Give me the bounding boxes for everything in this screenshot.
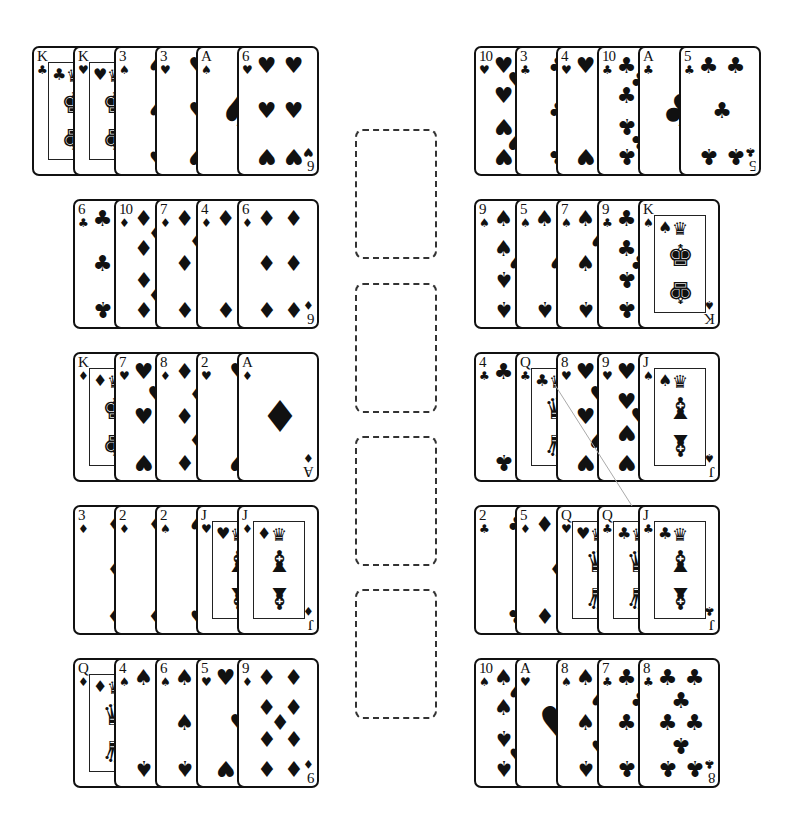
card-pips: ♥♥♥♥♥♥ — [253, 58, 307, 164]
card-rank: 3 — [160, 49, 167, 64]
card-rank-bottom: 6 — [307, 158, 315, 173]
diamond-icon: ♦ — [535, 514, 555, 536]
5-of-clubs-card[interactable]: 5♣♣♣♣♣♣5♣ — [679, 46, 761, 176]
club-icon: ♣ — [602, 676, 613, 688]
card-rank: 6 — [78, 202, 85, 217]
card-rank: K — [78, 355, 88, 370]
spade-icon: ♠ — [643, 370, 654, 382]
club-icon: ♣ — [617, 298, 637, 320]
king-of-spades-card[interactable]: K♠♠♛♚♚K♠ — [638, 199, 720, 329]
card-rank: 7 — [602, 661, 609, 676]
card-rank-bottom: 5 — [749, 158, 757, 173]
heart-icon: ♥ — [257, 100, 277, 122]
jack-of-clubs-card[interactable]: J♣♣♛♝♝J♣ — [638, 505, 720, 635]
card-rank: 8 — [643, 661, 650, 676]
jack-of-spades-card[interactable]: J♠♠♛♝♝J♠ — [638, 352, 720, 482]
crown-icon: ♛ — [672, 371, 688, 392]
club-icon: ♣ — [643, 523, 654, 535]
heart-icon: ♥ — [257, 145, 277, 167]
figure-icon: ♚ — [667, 275, 694, 310]
spade-icon: ♠ — [704, 452, 715, 464]
face-card-portrait: ♣♛♝♝ — [654, 521, 706, 619]
card-rank: A — [201, 49, 211, 64]
heart-icon: ♥ — [134, 451, 154, 473]
card-rank: Q — [602, 508, 612, 523]
left-pile-2: 6♣♣♣♣♣♣♣10♦♦♦♦♦♦♦♦♦♦♦7♦♦♦♦♦♦♦♦4♦♦♦♦♦6♦♦♦… — [73, 199, 319, 329]
card-rank: 3 — [520, 49, 527, 64]
figure-icon: ♝ — [667, 428, 694, 463]
card-rank: 9 — [602, 355, 609, 370]
club-icon: ♣ — [494, 451, 514, 473]
club-icon: ♣ — [535, 371, 549, 390]
face-card-portrait: ♦♛♝♝ — [253, 521, 305, 619]
spade-icon: ♠ — [175, 667, 195, 689]
figure-icon: ♝ — [667, 391, 694, 426]
club-icon: ♣ — [685, 667, 705, 689]
spade-icon: ♠ — [535, 298, 555, 320]
card-rank: 2 — [479, 508, 486, 523]
right-pile-5: 10♠♠♠♠♠♠♠♠♠♠♠A♥♥8♠♠♠♠♠♠♠♠♠7♣♣♣♣♣♣♣♣8♣♣♣♣… — [474, 658, 720, 788]
card-rank: Q — [78, 661, 88, 676]
diamond-icon: ♦ — [93, 371, 107, 390]
diamond-icon: ♦ — [216, 298, 236, 320]
diamond-icon: ♦ — [242, 370, 253, 382]
foundation-slot-2[interactable] — [355, 283, 437, 413]
club-icon: ♣ — [602, 217, 613, 229]
8-of-clubs-card[interactable]: 8♣♣♣♣♣♣♣♣♣8♣ — [638, 658, 720, 788]
foundation-slot-1[interactable] — [355, 129, 437, 259]
card-rank: 5 — [684, 49, 691, 64]
foundation-slot-4[interactable] — [355, 589, 437, 719]
face-card-portrait: ♠♛♝♝ — [654, 368, 706, 466]
heart-icon: ♥ — [576, 451, 596, 473]
diamond-icon: ♦ — [257, 208, 277, 230]
spade-icon: ♠ — [160, 523, 171, 535]
left-pile-5: Q♦♦♛♛♛4♠♠♠♠♠6♠♠♠♠♠♠♠5♥♥♥♥♥♥9♦♦♦♦♦♦♦♦♦♦9♦ — [73, 658, 319, 788]
card-rank-bottom: J — [308, 617, 314, 632]
6-of-hearts-card[interactable]: 6♥♥♥♥♥♥♥6♥ — [237, 46, 319, 176]
diamond-icon: ♦ — [175, 406, 195, 428]
card-pips: ♦ — [253, 364, 307, 470]
spade-icon: ♠ — [576, 208, 596, 230]
diamond-icon: ♦ — [175, 208, 195, 230]
club-icon: ♣ — [93, 298, 113, 320]
heart-icon: ♥ — [617, 421, 637, 443]
heart-icon: ♥ — [617, 451, 637, 473]
heart-icon: ♥ — [119, 370, 130, 382]
spade-icon: ♠ — [134, 757, 154, 779]
card-rank: 5 — [520, 508, 527, 523]
diamond-icon: ♦ — [257, 757, 277, 779]
heart-icon: ♥ — [561, 523, 572, 535]
spade-icon: ♠ — [494, 208, 514, 230]
left-pile-3: K♦♦♛♚♚7♥♥♥♥♥♥♥♥8♦♦♦♦♦♦♦♦♦2♥♥♥A♦♦A♦ — [73, 352, 319, 482]
9-of-diamonds-card[interactable]: 9♦♦♦♦♦♦♦♦♦♦9♦ — [237, 658, 319, 788]
heart-icon: ♥ — [284, 55, 304, 77]
card-rank: 8 — [160, 355, 167, 370]
spade-icon: ♠ — [494, 268, 514, 290]
right-pile-4: 2♣♣♣5♦♦♦♦♦♦Q♥♥♛♛♛Q♣♣♛♛♛J♣♣♛♝♝J♣ — [474, 505, 720, 635]
heart-icon: ♥ — [257, 55, 277, 77]
heart-icon: ♥ — [576, 361, 596, 383]
card-rank: 8 — [561, 661, 568, 676]
spade-icon: ♠ — [561, 217, 572, 229]
ace-of-diamonds-card[interactable]: A♦♦A♦ — [237, 352, 319, 482]
club-icon: ♣ — [684, 64, 695, 76]
card-rank-bottom: 6 — [307, 311, 315, 326]
heart-icon: ♥ — [576, 145, 596, 167]
jack-of-diamonds-card[interactable]: J♦♦♛♝♝J♦ — [237, 505, 319, 635]
spade-icon: ♠ — [494, 697, 514, 719]
6-of-diamonds-card[interactable]: 6♦♦♦♦♦♦♦6♦ — [237, 199, 319, 329]
crown-icon: ♛ — [672, 524, 688, 545]
face-card-portrait: ♠♛♚♚ — [654, 215, 706, 313]
spade-icon: ♠ — [134, 667, 154, 689]
card-rank-bottom: 9 — [307, 770, 315, 785]
club-icon: ♣ — [617, 757, 637, 779]
card-rank: J — [242, 508, 247, 523]
diamond-icon: ♦ — [284, 208, 304, 230]
spade-icon: ♠ — [576, 757, 596, 779]
foundation-slot-3[interactable] — [355, 436, 437, 566]
card-rank: 3 — [119, 49, 126, 64]
diamond-icon: ♦ — [535, 604, 555, 626]
club-icon: ♣ — [37, 64, 48, 76]
diamond-icon: ♦ — [175, 298, 195, 320]
heart-icon: ♥ — [93, 65, 107, 84]
